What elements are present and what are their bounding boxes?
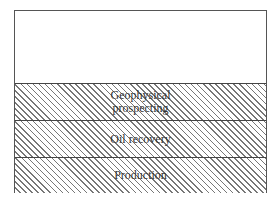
layer-geophysical-prospecting: Geophysical prospecting xyxy=(15,83,266,120)
layer-diagram-frame: Geophysical prospecting Oil recovery Pro… xyxy=(14,10,267,193)
layer-label: Geophysical prospecting xyxy=(111,89,171,115)
layer-production: Production xyxy=(15,157,266,193)
layer-oil-recovery: Oil recovery xyxy=(15,120,266,157)
layer-label-line2: prospecting xyxy=(111,102,171,115)
layer-label: Production xyxy=(114,169,167,182)
layer-label: Oil recovery xyxy=(110,133,170,146)
